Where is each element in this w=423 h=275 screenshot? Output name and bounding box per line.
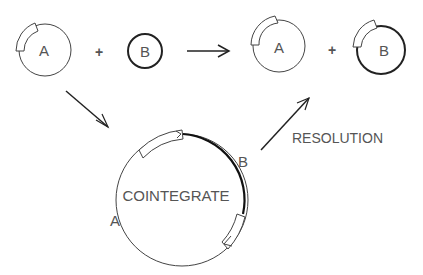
transposon-box — [353, 20, 377, 47]
cointegrate-label: COINTEGRATE — [122, 187, 229, 204]
transposon-box — [222, 214, 245, 249]
plasmid-b-product: B — [353, 20, 405, 74]
plasmid-a-product: A — [251, 16, 305, 72]
plasmid-a-label: A — [39, 42, 49, 59]
plasmid-b-reactant: B — [128, 34, 162, 68]
plus-sign: + — [95, 44, 103, 60]
transposon-box — [16, 23, 38, 51]
segment-b-label: B — [238, 153, 248, 170]
plasmid-a-label: A — [274, 39, 284, 56]
transposition-arrow — [187, 45, 229, 57]
plasmid-b-label: B — [140, 43, 150, 60]
transposon-box — [139, 130, 183, 158]
plasmid-b-label: B — [379, 42, 389, 59]
plus-sign: + — [328, 42, 336, 58]
resolution-label: RESOLUTION — [292, 130, 383, 146]
diagram-canvas: A + B A + B COINTEGRATE — [0, 0, 423, 275]
segment-a-label: A — [110, 212, 120, 229]
cointegrate-plasmid: COINTEGRATE B A — [110, 130, 248, 266]
fusion-arrow — [66, 91, 108, 127]
plasmid-a-reactant: A — [16, 23, 71, 76]
